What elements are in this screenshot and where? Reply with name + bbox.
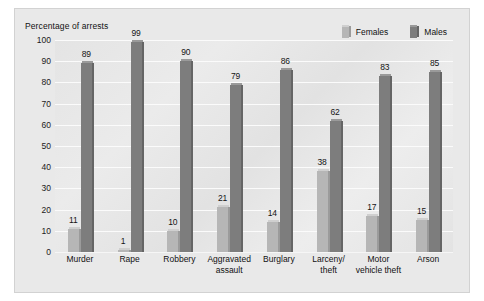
y-axis-tick-20: 20 [21, 205, 51, 214]
bar-females-4[interactable]: 14 [267, 222, 278, 252]
x-axis-label-line: vehicle theft [356, 265, 401, 276]
gridline-50 [55, 146, 453, 147]
legend-label: Males [424, 27, 447, 37]
gridline-90 [55, 61, 453, 62]
x-axis-label-5: Larceny/theft [312, 254, 345, 275]
bar-females-1[interactable]: 1 [118, 250, 129, 252]
legend-label: Females [356, 27, 389, 37]
bar-face [131, 42, 142, 252]
x-axis-label-6: Motorvehicle theft [356, 254, 401, 275]
y-axis-tick-0: 0 [21, 248, 51, 257]
legend-item-males[interactable]: Males [410, 25, 447, 38]
bar-chart-figure: Percentage of arrests FemalesMales 10090… [0, 0, 484, 301]
y-axis-tick-100: 100 [21, 36, 51, 45]
gridline-70 [55, 104, 453, 105]
bar-face [68, 229, 79, 252]
bar-males-0[interactable]: 89 [81, 63, 92, 252]
y-axis-tick-40: 40 [21, 163, 51, 172]
bar-value-label: 38 [317, 158, 326, 167]
x-axis-label-4: Burglary [263, 254, 295, 265]
x-axis-label-3: Aggravatedassault [207, 254, 250, 275]
bar-face [379, 76, 390, 252]
bar-value-label: 99 [131, 29, 140, 38]
bar-males-2[interactable]: 90 [180, 61, 191, 252]
bar-females-3[interactable]: 21 [217, 207, 228, 252]
gridline-0 [55, 252, 453, 253]
bar-face [267, 222, 278, 252]
bar-side [191, 61, 193, 252]
plot-area: 1189199109021791486386217831585 [55, 40, 453, 252]
x-axis-label-line: Aggravated [207, 254, 250, 265]
x-axis-label-line: Murder [66, 254, 93, 265]
bar-value-label: 1 [121, 237, 126, 246]
bar-females-0[interactable]: 11 [68, 229, 79, 252]
y-axis-tick-30: 30 [21, 184, 51, 193]
x-axis-label-0: Murder [66, 254, 93, 265]
gridline-40 [55, 167, 453, 168]
x-axis-label-7: Arson [417, 254, 439, 265]
bar-face [118, 250, 129, 252]
bar-face [217, 207, 228, 252]
y-axis-tick-60: 60 [21, 121, 51, 130]
bar-value-label: 90 [181, 48, 190, 57]
bar-side [440, 72, 442, 252]
chart-legend: FemalesMales [342, 25, 447, 38]
gridline-100 [55, 40, 453, 41]
bar-side [390, 76, 392, 252]
bar-side [92, 63, 94, 252]
bar-value-label: 79 [231, 72, 240, 81]
x-axis-label-line: assault [207, 265, 250, 276]
legend-swatch-icon [410, 25, 419, 38]
bar-face [330, 121, 341, 252]
chart-panel: Percentage of arrests FemalesMales 10090… [15, 9, 469, 292]
bar-females-2[interactable]: 10 [167, 231, 178, 252]
x-axis-label-2: Robbery [163, 254, 195, 265]
bar-value-label: 15 [417, 207, 426, 216]
bar-males-6[interactable]: 83 [379, 76, 390, 252]
bar-face [366, 216, 377, 252]
x-axis-label-line: Rape [119, 254, 139, 265]
bar-females-5[interactable]: 38 [317, 171, 328, 252]
bar-value-label: 10 [168, 218, 177, 227]
bar-females-6[interactable]: 17 [366, 216, 377, 252]
y-axis-tick-50: 50 [21, 142, 51, 151]
bar-males-4[interactable]: 86 [280, 70, 291, 252]
y-axis: 1009080706050403020100 [15, 40, 51, 252]
bar-side [241, 85, 243, 252]
x-axis-label-line: Motor [356, 254, 401, 265]
bar-face [167, 231, 178, 252]
bar-males-7[interactable]: 85 [429, 72, 440, 252]
bar-value-label: 14 [268, 209, 277, 218]
bar-males-1[interactable]: 99 [131, 42, 142, 252]
bar-value-label: 17 [367, 203, 376, 212]
chart-title: Percentage of arrests [25, 21, 108, 31]
bar-males-5[interactable]: 62 [330, 121, 341, 252]
x-axis: MurderRapeRobberyAggravatedassaultBurgla… [55, 254, 453, 290]
bar-face [81, 63, 92, 252]
bar-face [429, 72, 440, 252]
bar-face [280, 70, 291, 252]
bar-value-label: 83 [380, 63, 389, 72]
bar-face [180, 61, 191, 252]
x-axis-label-1: Rape [119, 254, 139, 265]
legend-item-females[interactable]: Females [342, 25, 389, 38]
bar-face [416, 220, 427, 252]
y-axis-tick-10: 10 [21, 227, 51, 236]
bar-value-label: 85 [430, 59, 439, 68]
x-axis-label-line: Arson [417, 254, 439, 265]
bar-side [291, 70, 293, 252]
bar-value-label: 86 [281, 57, 290, 66]
gridline-30 [55, 188, 453, 189]
bar-females-7[interactable]: 15 [416, 220, 427, 252]
y-axis-tick-80: 80 [21, 78, 51, 87]
legend-swatch-icon [342, 25, 351, 38]
bar-value-label: 21 [218, 194, 227, 203]
bar-value-label: 62 [330, 108, 339, 117]
bar-value-label: 89 [82, 50, 91, 59]
gridline-20 [55, 210, 453, 211]
bar-value-label: 11 [69, 216, 78, 225]
x-axis-label-line: Larceny/ [312, 254, 345, 265]
bar-males-3[interactable]: 79 [230, 85, 241, 252]
x-axis-label-line: Robbery [163, 254, 195, 265]
gridline-80 [55, 82, 453, 83]
